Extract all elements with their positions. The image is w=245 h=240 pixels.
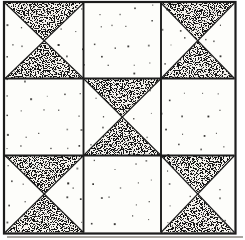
fabric-dot xyxy=(92,183,94,185)
fabric-dot xyxy=(115,48,116,49)
fabric-dot xyxy=(148,219,149,220)
fabric-dot xyxy=(178,144,180,146)
fabric-dot xyxy=(202,93,203,94)
fabric-dot xyxy=(75,31,76,32)
fabric-dot xyxy=(167,171,168,172)
fabric-dot xyxy=(50,148,51,149)
fabric-dot xyxy=(81,129,83,131)
fabric-dot xyxy=(64,94,66,96)
fabric-dot xyxy=(11,180,13,182)
fabric-dot xyxy=(119,14,120,15)
fabric-dot xyxy=(108,196,110,198)
fabric-dot xyxy=(136,204,137,205)
fabric-dot xyxy=(167,222,168,223)
fabric-dot xyxy=(101,26,102,27)
fabric-dot xyxy=(148,45,150,47)
fabric-dot xyxy=(138,182,139,183)
fabric-dot xyxy=(76,168,78,170)
fabric-dot xyxy=(151,180,152,181)
fabric-dot xyxy=(149,201,150,202)
fabric-dot xyxy=(25,201,26,202)
fabric-dot xyxy=(101,56,103,58)
fabric-dot xyxy=(101,197,103,199)
fabric-dot xyxy=(114,223,116,225)
fabric-dot xyxy=(220,55,222,57)
fabric-dot xyxy=(205,39,206,40)
fabric-dot xyxy=(12,44,14,46)
fabric-dot xyxy=(184,93,185,94)
fabric-dot xyxy=(219,189,220,190)
fabric-dot xyxy=(146,160,148,162)
quilt-block-svg xyxy=(0,0,245,240)
fabric-dot xyxy=(223,146,224,147)
fabric-dot xyxy=(125,26,126,27)
fabric-dot xyxy=(169,100,171,102)
fabric-dot xyxy=(94,160,95,161)
fabric-dot xyxy=(21,46,23,48)
fabric-dot xyxy=(66,196,68,198)
fabric-dot xyxy=(132,215,133,216)
fabric-dot xyxy=(67,182,69,184)
fabric-dot xyxy=(224,220,226,222)
quilt-block-illustration xyxy=(0,0,245,240)
fabric-dot xyxy=(81,8,82,9)
fabric-dot xyxy=(151,20,153,22)
fabric-dot xyxy=(102,127,104,129)
fabric-dot xyxy=(146,137,147,138)
fabric-dot xyxy=(111,25,112,26)
fabric-dot xyxy=(78,116,79,117)
fabric-dot xyxy=(21,27,22,28)
fabric-dot xyxy=(26,137,27,138)
fabric-dot xyxy=(134,65,135,66)
fabric-dot xyxy=(219,197,221,199)
fabric-dot xyxy=(24,81,26,83)
fabric-dot xyxy=(164,63,165,64)
fabric-dot xyxy=(135,163,137,165)
fabric-dot xyxy=(170,205,171,206)
fabric-dot xyxy=(21,110,22,111)
fabric-dot xyxy=(7,134,9,136)
fabric-dot xyxy=(181,116,183,118)
fabric-dot xyxy=(204,135,206,137)
fabric-dot xyxy=(115,169,116,170)
fabric-dot xyxy=(96,98,97,99)
fabric-dot xyxy=(8,205,10,207)
fabric-dot xyxy=(108,65,109,66)
fabric-dot xyxy=(58,110,59,111)
fabric-dot xyxy=(127,46,129,48)
fabric-dot xyxy=(218,93,219,94)
fabric-dot xyxy=(80,93,81,94)
fabric-dot xyxy=(79,145,81,147)
fabric-dot xyxy=(61,28,62,29)
fabric-dot xyxy=(80,198,82,200)
fabric-dot xyxy=(213,41,215,43)
fabric-dot xyxy=(133,73,135,75)
fabric-dot xyxy=(91,223,93,225)
fabric-dot xyxy=(23,184,24,185)
fabric-dot xyxy=(190,196,191,197)
fabric-dot xyxy=(180,30,182,32)
fabric-dot xyxy=(152,5,153,6)
fabric-dot xyxy=(103,116,104,117)
fabric-dot xyxy=(134,8,136,10)
fabric-dot xyxy=(7,95,8,96)
fabric-dot xyxy=(7,56,8,57)
fabric-dot xyxy=(7,115,8,116)
fabric-dot xyxy=(94,44,96,46)
fabric-dot xyxy=(67,148,68,149)
fabric-dot xyxy=(216,133,217,134)
fabric-dot xyxy=(81,222,82,223)
fabric-dot xyxy=(149,62,150,63)
fabric-dot xyxy=(38,133,39,134)
fabric-dot xyxy=(73,187,74,188)
fabric-dot xyxy=(20,145,22,147)
fabric-dot xyxy=(169,183,171,185)
fabric-dot xyxy=(200,149,202,151)
fabric-dot xyxy=(30,98,32,100)
fabric-dot xyxy=(120,187,121,188)
fabric-dot xyxy=(133,118,134,119)
fabric-dot xyxy=(67,129,69,131)
fabric-dot xyxy=(47,96,48,97)
fabric-dot xyxy=(66,56,68,58)
fabric-dot xyxy=(99,14,100,15)
